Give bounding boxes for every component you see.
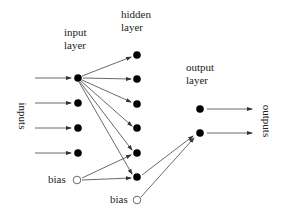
hidden-node-1 bbox=[133, 51, 141, 59]
neural-network-diagram: input layer hidden layer output layer in… bbox=[0, 0, 281, 217]
output-node-1 bbox=[196, 105, 204, 113]
hidden-node-4 bbox=[133, 124, 141, 132]
hidden-node-2 bbox=[133, 75, 141, 83]
input-layer-label-line1: input bbox=[64, 26, 87, 38]
input-layer-label-line2: layer bbox=[64, 39, 86, 51]
input-node-3 bbox=[74, 124, 82, 132]
hidden-node-6 bbox=[133, 173, 141, 181]
input-bias-label: bias bbox=[48, 173, 66, 185]
output-node-2 bbox=[196, 129, 204, 137]
output-layer-label-line1: output bbox=[186, 61, 214, 73]
hidden-node-3 bbox=[133, 100, 141, 108]
edges bbox=[35, 57, 252, 197]
diagram-svg: input layer hidden layer output layer in… bbox=[0, 0, 281, 217]
hidden-bias-node bbox=[133, 196, 141, 204]
hidden-node-5 bbox=[133, 149, 141, 157]
input-node-1 bbox=[74, 74, 82, 82]
hidden-layer-label-line2: layer bbox=[121, 21, 143, 33]
outputs-label: outputs bbox=[261, 105, 273, 137]
hidden-layer-label-line1: hidden bbox=[121, 8, 151, 20]
inputs-label: inputs bbox=[17, 103, 29, 130]
input-bias-node bbox=[73, 176, 81, 184]
output-layer-label-line2: layer bbox=[186, 74, 208, 86]
hidden-bias-label: bias bbox=[110, 193, 128, 205]
input-node-4 bbox=[74, 149, 82, 157]
input-node-2 bbox=[74, 99, 82, 107]
